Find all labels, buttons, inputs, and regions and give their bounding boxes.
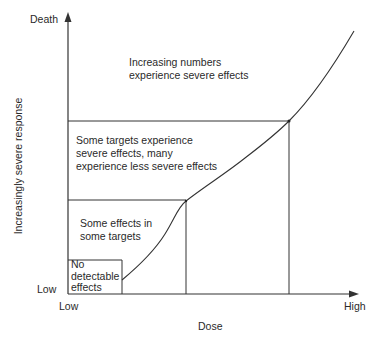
y-axis-top-label: Death — [30, 13, 58, 26]
region-label-some: Some effects in some targets — [80, 217, 152, 243]
x-axis-high-label: High — [344, 300, 366, 313]
y-axis-arrow-icon — [65, 12, 72, 22]
y-axis-title: Increasingly severe response — [12, 96, 24, 236]
region-label-severe: Some targets experience severe effects, … — [76, 134, 217, 173]
x-axis-title: Dose — [198, 320, 223, 333]
region-label-top: Increasing numbers experience severe eff… — [129, 56, 248, 82]
y-axis-low-label: Low — [37, 283, 56, 296]
region-label-none: No detectable effects — [71, 259, 119, 294]
x-axis-low-label: Low — [59, 300, 78, 313]
x-axis-arrow-icon — [349, 291, 359, 298]
curve-point-marker — [185, 200, 187, 202]
curve-point-marker — [288, 120, 291, 123]
